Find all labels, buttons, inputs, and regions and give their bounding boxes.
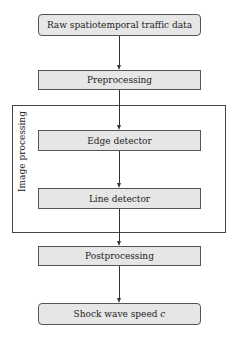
node-label: Edge detector [87,136,152,146]
node-label: Line detector [89,194,150,204]
variable-c: c [160,309,165,319]
connector-raw-pre [119,36,120,66]
node-preprocessing: Preprocessing [38,70,201,90]
node-label: Preprocessing [87,75,152,85]
node-line-detector: Line detector [38,188,201,209]
node-edge-detector: Edge detector [38,130,201,151]
node-label: Raw spatiotemporal traffic data [47,20,192,30]
node-postprocessing: Postprocessing [38,246,201,266]
connector-pre-edge [119,90,120,126]
connector-edge-line [119,151,120,184]
connector-post-out [119,266,120,299]
image-processing-label: Image processing [17,112,27,192]
node-raw-data: Raw spatiotemporal traffic data [38,14,201,36]
node-label: Postprocessing [85,251,154,261]
node-label: Shock wave speed [74,309,161,319]
node-shock-wave-speed: Shock wave speed c [38,303,201,325]
connector-line-post [119,209,120,242]
